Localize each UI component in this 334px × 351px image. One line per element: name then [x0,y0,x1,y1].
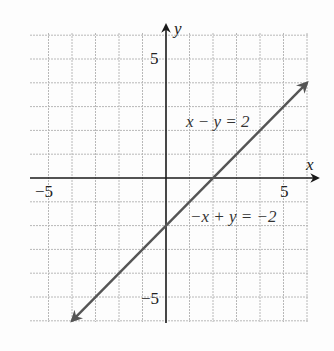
equation-label-1: x − y = 2 [185,112,250,131]
x-tick-label-5: 5 [280,182,289,201]
equation-label-2: −x + y = −2 [190,207,277,226]
y-tick-label-5: 5 [150,49,159,68]
y-axis-label: y [172,19,182,38]
x-axis-label: x [305,155,314,174]
x-tick-label-neg5: −5 [35,182,53,201]
coordinate-plane: x y −5 5 5 −5 x − y = 2 −x + y = −2 [0,0,334,351]
graph-figure: x y −5 5 5 −5 x − y = 2 −x + y = −2 [0,0,334,351]
y-tick-label-neg5: −5 [141,289,159,308]
